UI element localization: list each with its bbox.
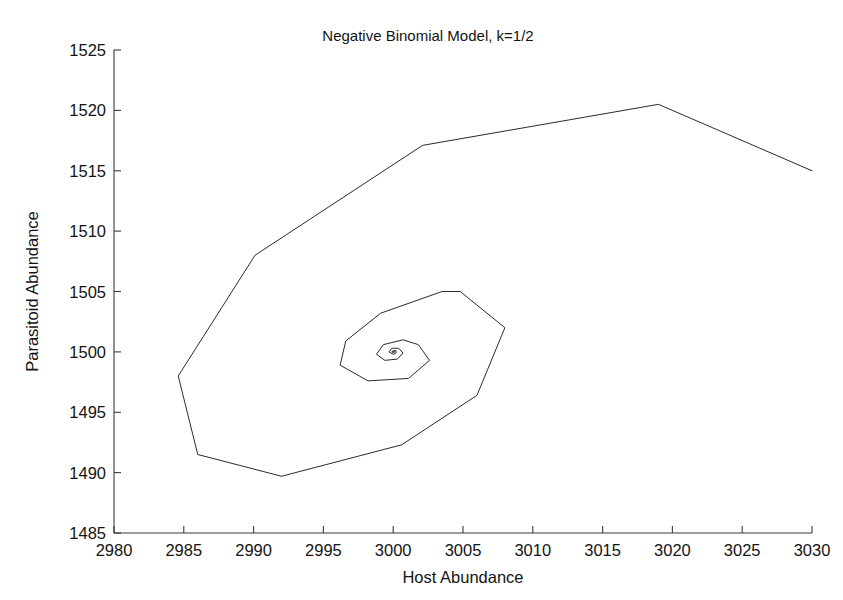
plot-background [114,50,812,533]
figure-canvas: Negative Binomial Model, k=1/2 1485 1490… [0,0,843,600]
x-tick-label: 2980 [96,541,133,559]
y-tick-label: 1490 [69,464,106,482]
y-tick-label: 1510 [69,222,106,240]
y-tick-label: 1520 [69,101,106,119]
x-tick-label: 3025 [724,541,761,559]
x-tick-label: 3010 [514,541,551,559]
x-axis-title: Host Abundance [402,568,523,586]
x-tick-label: 3030 [794,541,831,559]
y-axis-title: Parasitoid Abundance [23,211,41,372]
y-tick-label: 1485 [69,524,106,542]
y-tick-label: 1515 [69,162,106,180]
x-axis-tick-labels: 2980 2985 2990 2995 3000 3005 3010 3015 … [96,541,831,559]
x-tick-label: 3000 [375,541,412,559]
y-tick-label: 1525 [69,41,106,59]
x-tick-label: 2985 [165,541,202,559]
x-tick-label: 3015 [584,541,621,559]
chart-title: Negative Binomial Model, k=1/2 [322,27,533,44]
y-axis-tick-labels: 1485 1490 1495 1500 1505 1510 1515 1520 … [69,41,106,542]
x-tick-label: 2995 [305,541,342,559]
y-tick-label: 1495 [69,403,106,421]
y-tick-label: 1500 [69,343,106,361]
y-tick-label: 1505 [69,283,106,301]
x-tick-label: 3020 [654,541,691,559]
chart-svg: Negative Binomial Model, k=1/2 1485 1490… [0,0,843,600]
x-tick-label: 2990 [235,541,272,559]
x-tick-label: 3005 [445,541,482,559]
